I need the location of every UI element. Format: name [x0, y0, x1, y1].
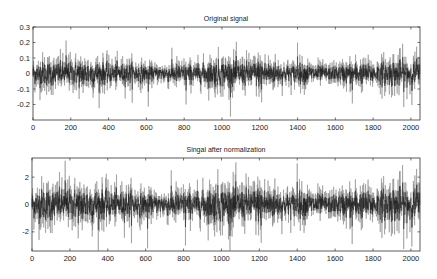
svg-text:-0.2: -0.2: [17, 100, 30, 109]
svg-text:2000: 2000: [403, 123, 420, 132]
svg-text:2: 2: [25, 173, 29, 182]
svg-text:0.2: 0.2: [20, 38, 30, 47]
svg-text:400: 400: [102, 254, 115, 263]
svg-text:1200: 1200: [251, 123, 268, 132]
svg-text:0: 0: [25, 200, 29, 209]
svg-text:2000: 2000: [403, 254, 420, 263]
svg-text:1200: 1200: [251, 254, 268, 263]
svg-text:1600: 1600: [327, 123, 344, 132]
svg-text:200: 200: [64, 254, 77, 263]
svg-text:1800: 1800: [365, 254, 382, 263]
subplot-original-signal: Original signal 020040060080010001200140…: [17, 15, 420, 132]
svg-text:-0.1: -0.1: [17, 85, 30, 94]
subplot-normalized-signal: Singal after normalization 0200400600800…: [22, 146, 420, 263]
svg-text:1800: 1800: [365, 123, 382, 132]
svg-text:1400: 1400: [289, 123, 306, 132]
svg-text:600: 600: [140, 123, 153, 132]
svg-text:0: 0: [26, 69, 30, 78]
svg-text:0.1: 0.1: [20, 54, 30, 63]
svg-text:1400: 1400: [289, 254, 306, 263]
svg-text:1000: 1000: [214, 123, 231, 132]
svg-text:0: 0: [31, 123, 35, 132]
svg-text:800: 800: [177, 254, 190, 263]
plot-title: Singal after normalization: [187, 146, 266, 154]
svg-text:600: 600: [139, 254, 152, 263]
svg-text:800: 800: [178, 123, 191, 132]
svg-text:1000: 1000: [213, 254, 230, 263]
plot-title: Original signal: [204, 15, 249, 23]
signal-trace: [32, 161, 420, 251]
svg-text:0.3: 0.3: [20, 23, 30, 32]
svg-text:200: 200: [65, 123, 78, 132]
svg-text:-2: -2: [22, 227, 29, 236]
svg-text:400: 400: [102, 123, 115, 132]
figure: Original signal 020040060080010001200140…: [0, 0, 437, 279]
svg-text:0: 0: [30, 254, 34, 263]
svg-text:1600: 1600: [327, 254, 344, 263]
signal-trace: [33, 41, 420, 117]
